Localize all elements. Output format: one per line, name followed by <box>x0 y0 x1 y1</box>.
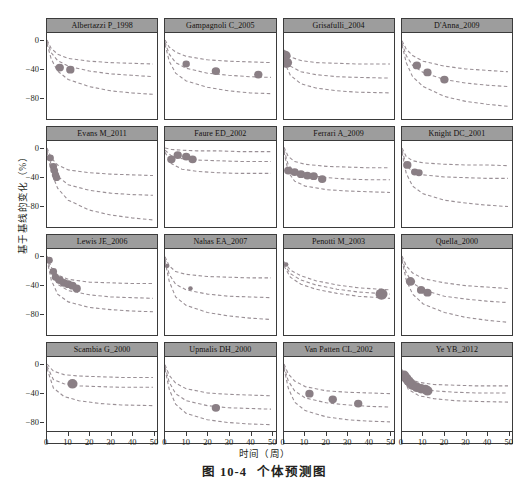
y-tick-mark <box>40 69 44 70</box>
y-tick-mark <box>40 177 44 178</box>
panel-strip-label: Faure ED_2002 <box>164 126 276 141</box>
prediction-curve-middle <box>165 367 271 409</box>
y-tick-label: 0 <box>35 143 39 153</box>
data-point <box>212 67 220 75</box>
panel-plot-area <box>401 33 513 120</box>
data-point <box>423 69 431 77</box>
data-point <box>328 395 336 403</box>
panel-16: Ye YB_2012 <box>401 342 513 444</box>
y-tick-label: 0 <box>35 251 39 261</box>
data-point <box>212 404 220 412</box>
panel-plot-area <box>283 141 395 228</box>
prediction-curve-upper <box>165 257 271 278</box>
figure-caption-text: 个体预测图 <box>257 465 327 479</box>
prediction-curve-upper <box>165 40 271 63</box>
x-tick-mark <box>272 432 273 436</box>
observed-points <box>167 151 197 163</box>
y-tick-label: −80 <box>26 417 39 427</box>
y-tick-mark <box>40 40 44 41</box>
panel-1: Albertazzi P_1998 <box>46 18 158 120</box>
y-tick-mark <box>40 285 44 286</box>
figure-number: 图 10-4 <box>202 465 247 479</box>
prediction-curve-middle <box>284 56 390 79</box>
data-point <box>188 286 193 290</box>
data-point <box>284 262 288 266</box>
observed-points <box>284 50 292 67</box>
x-tick-mark <box>207 432 208 436</box>
prediction-curve-upper <box>284 50 390 64</box>
prediction-curve-lower <box>47 152 153 220</box>
panel-plot-area <box>164 141 276 228</box>
y-tick-label: −40 <box>26 388 39 398</box>
panel-strip-label: Ferrari A_2009 <box>283 126 395 141</box>
panel-5: Evans M_2011 <box>46 126 158 228</box>
x-tick-mark <box>154 432 155 436</box>
panel-9: Lewis JE_2006 <box>46 234 158 336</box>
y-tick-mark <box>40 393 44 394</box>
prediction-curve-upper <box>47 40 153 64</box>
panel-14: Upmalis DH_2000 <box>164 342 276 444</box>
panel-strip-label: Penotti M_2003 <box>283 234 395 249</box>
x-tick-mark <box>111 432 112 436</box>
y-tick-label: −40 <box>26 64 39 74</box>
y-tick-mark <box>40 148 44 149</box>
data-point <box>403 161 411 169</box>
x-tick-mark <box>487 432 488 436</box>
individual-prediction-figure: 基于基线的变化（%） 0−40−800−40−800−40−800−40−80 … <box>0 0 529 481</box>
prediction-curve-upper <box>402 256 508 288</box>
x-tick-mark <box>390 432 391 436</box>
panel-3: Grisafulli_2004 <box>283 18 395 120</box>
panel-strip-label: Grisafulli_2004 <box>283 18 395 33</box>
data-point <box>73 285 81 293</box>
y-tick-mark <box>40 364 44 365</box>
panel-2: Gampagnoli C_2005 <box>164 18 276 120</box>
y-tick-label: −40 <box>26 280 39 290</box>
prediction-curve-middle <box>402 258 508 302</box>
observed-points <box>402 371 433 396</box>
x-tick-mark <box>229 432 230 436</box>
x-tick-mark <box>369 432 370 436</box>
prediction-curve-upper <box>284 364 390 394</box>
y-tick-mark <box>40 98 44 99</box>
panel-plot-area <box>401 141 513 228</box>
data-point <box>47 257 53 264</box>
prediction-curve-upper <box>47 148 153 175</box>
y-tick-label: −80 <box>26 201 39 211</box>
prediction-curve-upper <box>284 262 390 290</box>
x-tick-mark <box>326 432 327 436</box>
x-tick-mark <box>304 432 305 436</box>
x-tick-mark <box>89 432 90 436</box>
panel-strip-label: Albertazzi P_1998 <box>46 18 158 33</box>
data-point <box>415 169 422 176</box>
x-tick-mark <box>401 432 402 436</box>
x-tick-mark <box>466 432 467 436</box>
panel-strip-label: Upmalis DH_2000 <box>164 342 276 357</box>
data-point <box>375 289 387 300</box>
prediction-curve-middle <box>47 41 153 76</box>
panel-strip-label: Knight DC_2001 <box>401 126 513 141</box>
x-tick-mark <box>251 432 252 436</box>
prediction-curve-lower <box>165 369 271 425</box>
panel-plot-area <box>46 33 158 120</box>
panel-8: Knight DC_2001 <box>401 126 513 228</box>
prediction-curve-lower <box>402 45 508 106</box>
data-point <box>174 151 182 159</box>
data-point <box>406 277 415 286</box>
y-tick-group-row-3: 0−40−80 <box>0 247 44 336</box>
panel-strip-label: D'Anna_2009 <box>401 18 513 33</box>
observed-points <box>284 262 388 299</box>
data-point <box>305 390 313 398</box>
prediction-curve-lower <box>284 368 390 422</box>
panel-strip-label: Nahas EA_2007 <box>164 234 276 249</box>
data-point <box>165 264 169 268</box>
data-point <box>189 155 197 163</box>
x-tick-mark <box>46 432 47 436</box>
x-tick-mark <box>186 432 187 436</box>
panel-grid: Albertazzi P_1998Gampagnoli C_2005Grisaf… <box>46 18 513 444</box>
prediction-curve-middle <box>284 366 390 407</box>
panel-13: Scambia G_2000 <box>46 342 158 444</box>
panel-4: D'Anna_2009 <box>401 18 513 120</box>
x-tick-mark <box>68 432 69 436</box>
x-tick-mark <box>509 432 510 436</box>
y-tick-group-row-4: 0−40−80 <box>0 355 44 444</box>
